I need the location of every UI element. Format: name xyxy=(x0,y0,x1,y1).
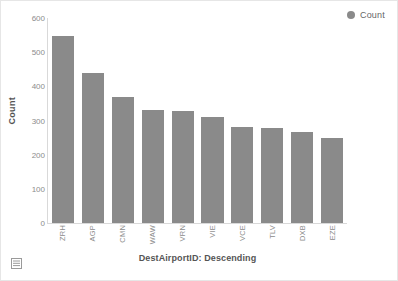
x-tick-slot: ZRH xyxy=(48,225,78,251)
y-axis-tick-label: 200 xyxy=(32,150,45,159)
x-axis-tick-label: ZRH xyxy=(58,225,67,241)
bar[interactable] xyxy=(261,128,283,223)
x-tick-slot: VIE xyxy=(198,225,228,251)
x-tick-slot: CMN xyxy=(108,225,138,251)
x-axis-tick-labels: ZRHAGPCMNWAWVRNVIEVCETLVDXBEZE xyxy=(48,225,347,251)
x-axis-line xyxy=(47,223,347,224)
x-axis-tick-label: AGP xyxy=(88,225,97,241)
y-axis-tick-label: 0 xyxy=(41,219,45,228)
plot-area: Count 0100200300400500600 ZRHAGPCMNWAWVR… xyxy=(1,1,398,281)
bar-slot xyxy=(48,18,78,223)
x-tick-slot: VRN xyxy=(168,225,198,251)
bar-slot xyxy=(198,18,228,223)
bar-chart-visual: Count Count 0100200300400500600 ZRHAGPCM… xyxy=(0,0,398,281)
y-axis-tick-label: 500 xyxy=(32,48,45,57)
bar-slot xyxy=(108,18,138,223)
x-tick-slot: DXB xyxy=(287,225,317,251)
bar[interactable] xyxy=(82,73,104,223)
x-axis-tick-label: TLV xyxy=(268,225,277,239)
y-axis-tick-labels: 0100200300400500600 xyxy=(19,1,45,281)
x-tick-slot: TLV xyxy=(257,225,287,251)
x-axis-tick-label: VCE xyxy=(238,225,247,241)
x-axis-tick-label: VRN xyxy=(178,225,187,241)
bar-slot xyxy=(138,18,168,223)
y-axis-tick-label: 300 xyxy=(32,116,45,125)
bar[interactable] xyxy=(291,132,313,223)
x-tick-slot: WAW xyxy=(138,225,168,251)
x-axis-tick-label: WAW xyxy=(148,225,157,244)
bar[interactable] xyxy=(52,36,74,223)
x-axis-tick-label: VIE xyxy=(208,225,217,238)
bar[interactable] xyxy=(142,110,164,223)
bar-slot xyxy=(257,18,287,223)
x-tick-slot: VCE xyxy=(227,225,257,251)
bar[interactable] xyxy=(231,127,253,223)
x-axis-tick-label: EZE xyxy=(328,225,337,240)
bar-slot xyxy=(287,18,317,223)
bar[interactable] xyxy=(172,111,194,223)
x-axis-tick-label: CMN xyxy=(118,225,127,243)
bar[interactable] xyxy=(112,97,134,223)
bar-slot xyxy=(78,18,108,223)
y-axis-tick-label: 400 xyxy=(32,82,45,91)
bar-slot xyxy=(227,18,257,223)
bar-series xyxy=(48,18,347,223)
y-axis-tick-label: 600 xyxy=(32,14,45,23)
x-tick-slot: EZE xyxy=(317,225,347,251)
bar-slot xyxy=(168,18,198,223)
x-axis-title: DestAirportID: Descending xyxy=(48,253,347,263)
bar-slot xyxy=(317,18,347,223)
table-grid-icon[interactable] xyxy=(10,257,23,270)
x-tick-slot: AGP xyxy=(78,225,108,251)
y-axis-tick-label: 100 xyxy=(32,184,45,193)
bar[interactable] xyxy=(201,117,223,223)
bar[interactable] xyxy=(321,138,343,223)
x-axis-tick-label: DXB xyxy=(298,225,307,241)
